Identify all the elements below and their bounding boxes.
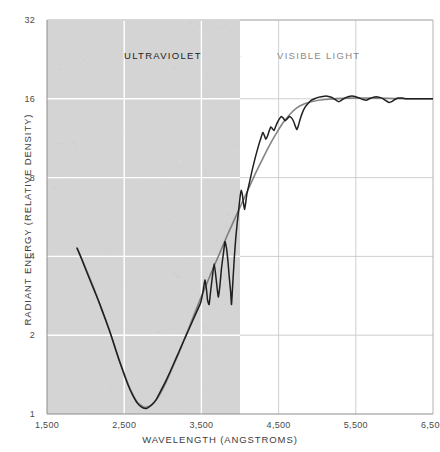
uv-shaded-region xyxy=(47,20,240,414)
band-label-ultraviolet: ULTRAVIOLET xyxy=(124,50,202,61)
y-tick-label: 32 xyxy=(25,15,35,25)
y-tick-label: 8 xyxy=(30,173,35,183)
x-tick-label: 6,500 xyxy=(421,420,440,430)
x-tick-label: 1,500 xyxy=(35,420,59,430)
y-tick-label: 2 xyxy=(30,330,35,340)
x-tick-label: 5,500 xyxy=(344,420,368,430)
chart-figure: ULTRAVIOLET VISIBLE LIGHT RADIANT ENERGY… xyxy=(0,0,440,452)
x-tick-label: 4,500 xyxy=(267,420,291,430)
band-label-visible: VISIBLE LIGHT xyxy=(277,50,360,61)
y-tick-label: 4 xyxy=(30,251,35,261)
y-tick-label: 1 xyxy=(30,409,35,419)
y-tick-label: 16 xyxy=(25,94,35,104)
x-tick-label: 2,500 xyxy=(112,420,136,430)
y-axis-title: RADIANT ENERGY (RELATIVE DENSITY) xyxy=(22,105,33,335)
x-axis-title: WAVELENGTH (ANGSTROMS) xyxy=(0,434,440,445)
x-tick-label: 3,500 xyxy=(189,420,213,430)
chart-canvas xyxy=(0,0,440,452)
